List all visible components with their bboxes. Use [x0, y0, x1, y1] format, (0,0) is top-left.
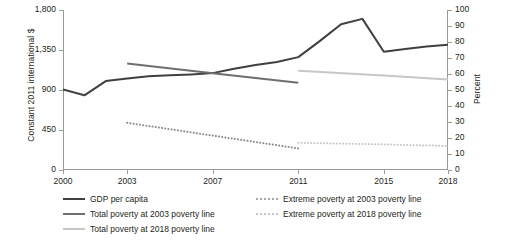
y-axis-right-tick-label: 90	[455, 20, 495, 30]
y-axis-right-tick	[448, 138, 452, 139]
legend-swatch-dotted-icon	[256, 213, 278, 215]
y-axis-right-tick-label: 70	[455, 52, 495, 62]
y-axis-right-tick	[448, 122, 452, 123]
x-axis-tick	[298, 170, 299, 174]
legend-swatch-solid-icon	[63, 198, 85, 200]
legend-column-left: GDP per capitaTotal poverty at 2003 pove…	[63, 192, 215, 237]
series-lines	[63, 10, 448, 170]
legend-item[interactable]: GDP per capita	[63, 192, 215, 206]
legend-label: Total poverty at 2018 poverty line	[90, 224, 215, 234]
y-axis-right-tick	[448, 90, 452, 91]
y-axis-right-tick	[448, 106, 452, 107]
y-axis-right-tick	[448, 74, 452, 75]
y-axis-right-tick-label: 10	[455, 148, 495, 158]
y-axis-left-tick-label: 0	[0, 164, 56, 174]
x-axis-tick	[213, 170, 214, 174]
x-axis-tick	[63, 170, 64, 174]
y-axis-right-tick-label: 20	[455, 132, 495, 142]
legend-label: Extreme poverty at 2003 poverty line	[283, 194, 421, 204]
legend-item[interactable]: Extreme poverty at 2018 poverty line	[256, 207, 421, 221]
legend-swatch-solid-icon	[63, 213, 85, 215]
series-line	[298, 143, 448, 146]
series-line	[127, 123, 298, 149]
y-axis-left-tick-label: 900	[0, 84, 56, 94]
y-axis-right-tick-label: 60	[455, 68, 495, 78]
legend-label: Extreme poverty at 2018 poverty line	[283, 209, 421, 219]
legend-item[interactable]: Total poverty at 2018 poverty line	[63, 222, 215, 236]
y-axis-right-tick-label: 100	[455, 4, 495, 14]
chart-legend: GDP per capitaTotal poverty at 2003 pove…	[63, 192, 513, 238]
x-axis-tick-label: 2018	[418, 176, 478, 186]
y-axis-right-tick	[448, 42, 452, 43]
legend-item[interactable]: Extreme poverty at 2003 poverty line	[256, 192, 421, 206]
x-axis-tick-label: 2015	[354, 176, 414, 186]
y-axis-right-tick-label: 30	[455, 116, 495, 126]
y-axis-right-tick	[448, 10, 452, 11]
x-axis-tick	[384, 170, 385, 174]
y-axis-right-tick-label: 0	[455, 164, 495, 174]
y-axis-right-tick-label: 80	[455, 36, 495, 46]
x-axis-tick	[127, 170, 128, 174]
series-line	[63, 19, 448, 95]
chart-figure: Constant 2011 international $ Percent 04…	[0, 0, 514, 241]
legend-swatch-solid-icon	[63, 228, 85, 230]
legend-label: Total poverty at 2003 poverty line	[90, 209, 215, 219]
legend-label: GDP per capita	[90, 194, 148, 204]
series-line	[298, 71, 448, 80]
plot-area: 04509001,3501,800 0102030405060708090100…	[63, 10, 448, 170]
legend-item[interactable]: Total poverty at 2003 poverty line	[63, 207, 215, 221]
x-axis-tick-label: 2000	[33, 176, 93, 186]
legend-swatch-dotted-icon	[256, 198, 278, 200]
y-axis-right-tick	[448, 26, 452, 27]
y-axis-right-tick-label: 50	[455, 84, 495, 94]
y-axis-right-tick	[448, 58, 452, 59]
y-axis-right-tick-label: 40	[455, 100, 495, 110]
x-axis-tick-label: 2011	[268, 176, 328, 186]
y-axis-left-tick-label: 1,350	[0, 44, 56, 54]
legend-column-right: Extreme poverty at 2003 poverty lineExtr…	[256, 192, 421, 222]
y-axis-right-tick	[448, 154, 452, 155]
x-axis-tick	[448, 170, 449, 174]
y-axis-left-tick-label: 1,800	[0, 4, 56, 14]
x-axis-tick-label: 2007	[183, 176, 243, 186]
y-axis-left-tick-label: 450	[0, 124, 56, 134]
series-line	[127, 64, 298, 83]
x-axis-tick-label: 2003	[97, 176, 157, 186]
